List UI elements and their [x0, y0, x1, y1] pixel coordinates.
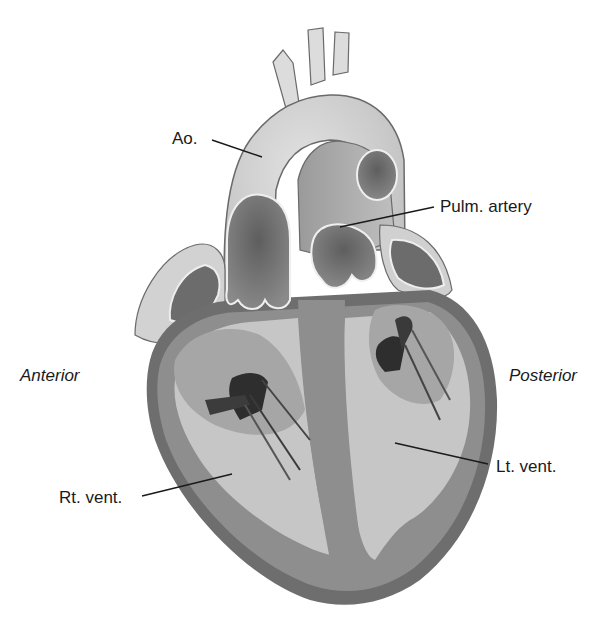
aortic-valve	[226, 195, 290, 309]
pulmonary-artery-opening	[357, 150, 397, 200]
label-posterior: Posterior	[509, 367, 577, 384]
label-pulmonary-artery: Pulm. artery	[440, 198, 532, 215]
label-aorta: Ao.	[172, 130, 198, 147]
label-right-ventricle: Rt. vent.	[59, 489, 122, 506]
label-left-ventricle: Lt. vent.	[496, 458, 556, 475]
label-anterior: Anterior	[20, 367, 80, 384]
heart-illustration	[0, 0, 611, 628]
